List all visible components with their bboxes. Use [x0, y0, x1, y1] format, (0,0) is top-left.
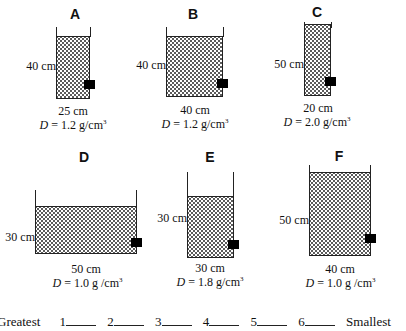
width-label: 30 cm: [180, 261, 240, 276]
submerged-block: [365, 234, 376, 243]
height-label: 50 cm: [270, 57, 304, 72]
rank-slot-2[interactable]: 2: [107, 314, 152, 329]
density-symbol: D: [306, 276, 315, 290]
density-exponent: 3: [225, 117, 229, 125]
rank-slot-5[interactable]: 5: [251, 314, 296, 329]
height-label: 40 cm: [130, 58, 166, 73]
liquid: [187, 196, 234, 258]
submerged-block: [325, 77, 336, 86]
width-label: 40 cm: [310, 262, 370, 277]
container-letter: A: [60, 6, 90, 22]
density-symbol: D: [40, 118, 49, 132]
answer-blank[interactable]: [66, 313, 96, 326]
density-exponent: 3: [103, 118, 107, 126]
rank-slot-6[interactable]: 6: [298, 314, 343, 329]
density-label: D = 1.8 g/cm3: [165, 275, 255, 290]
density-exponent: 3: [240, 275, 244, 283]
height-label: 30 cm: [150, 211, 187, 226]
density-exponent: 3: [372, 276, 376, 284]
width-label: 50 cm: [56, 262, 116, 277]
density-value: = 1.2 g/cm: [48, 118, 103, 132]
density-label: D = 2.0 g/cm3: [272, 115, 362, 130]
rank-slot-3[interactable]: 3: [155, 314, 200, 329]
submerged-block: [131, 238, 142, 247]
submerged-block: [217, 79, 228, 88]
density-label: D = 1.2 g/cm3: [150, 117, 240, 132]
width-label: 25 cm: [43, 104, 103, 119]
greatest-label: Greatest: [0, 314, 40, 329]
answer-blank[interactable]: [257, 313, 287, 326]
density-value: = 1.0 g /cm: [314, 276, 372, 290]
density-exponent: 3: [347, 115, 351, 123]
submerged-block: [228, 240, 239, 249]
density-value: = 1.0 g /cm: [61, 276, 119, 290]
container-letter: B: [178, 6, 208, 22]
height-label: 40 cm: [0, 59, 56, 74]
answer-blank[interactable]: [305, 313, 335, 326]
density-value: = 2.0 g/cm: [292, 115, 347, 129]
density-symbol: D: [284, 115, 293, 129]
container-letter: F: [324, 148, 354, 164]
rank-slot-1[interactable]: 1: [60, 314, 105, 329]
density-exponent: 3: [119, 276, 123, 284]
answer-blank[interactable]: [209, 313, 239, 326]
density-value: = 1.2 g/cm: [170, 117, 225, 131]
liquid: [166, 36, 223, 97]
width-label: 20 cm: [288, 101, 348, 116]
density-label: D = 1.0 g /cm3: [293, 276, 388, 291]
height-label: 30 cm: [0, 230, 35, 245]
container-letter: D: [69, 149, 99, 165]
width-label: 40 cm: [165, 103, 225, 118]
liquid: [35, 206, 137, 254]
ranking-row: Greatest 1 2 3 4 5 6 Smallest: [0, 313, 391, 330]
container-letter: C: [302, 4, 332, 20]
height-label: 50 cm: [270, 213, 309, 228]
container-letter: E: [195, 149, 225, 165]
density-symbol: D: [162, 117, 171, 131]
rank-slot-4[interactable]: 4: [203, 314, 248, 329]
density-symbol: D: [53, 276, 62, 290]
answer-blank[interactable]: [114, 313, 144, 326]
submerged-block: [84, 80, 95, 89]
density-symbol: D: [177, 275, 186, 289]
density-value: = 1.8 g/cm: [185, 275, 240, 289]
smallest-label: Smallest: [346, 314, 391, 329]
liquid: [309, 172, 371, 256]
density-label: D = 1.2 g/cm3: [28, 118, 118, 133]
answer-blank[interactable]: [162, 313, 192, 326]
tank-walls: [187, 172, 234, 197]
liquid: [56, 36, 90, 99]
density-label: D = 1.0 g /cm3: [40, 276, 135, 291]
